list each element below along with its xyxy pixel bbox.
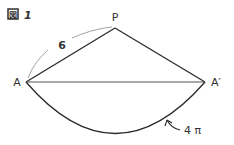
point-label-P: P	[112, 11, 119, 24]
side-length-arc-right	[72, 27, 112, 38]
figure-title: 図 1	[8, 9, 32, 22]
segment-AP	[26, 28, 115, 82]
figure-title-glyph: 図	[9, 11, 17, 20]
side-length-arc-left	[28, 50, 48, 78]
point-label-A: A	[13, 76, 21, 89]
point-label-A-prime: A′	[211, 76, 222, 89]
segment-PA-prime	[115, 28, 205, 82]
figure-number: 1	[24, 9, 32, 22]
side-length-label: 6	[58, 39, 66, 52]
arc-length-label: 4 π	[184, 124, 201, 137]
arc-AA-prime	[26, 82, 205, 134]
fan-diagram: 図 1 P A A′ 6 4 π	[0, 0, 234, 145]
